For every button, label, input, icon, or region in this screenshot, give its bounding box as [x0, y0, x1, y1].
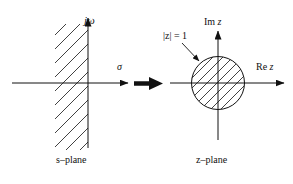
- figure-vector-layer: [0, 0, 293, 184]
- s-plane-real-axis-label: σ: [117, 62, 122, 72]
- figure-canvas: jω σ s–plane |z| = 1 Im z Re z z–plane: [0, 0, 293, 184]
- z-plane-real-axis-label-variable: z: [270, 61, 274, 72]
- z-plane-imaginary-axis-label-roman: Im: [204, 16, 215, 27]
- unit-circle-callout-leader: [182, 43, 199, 61]
- z-plane-caption: z–plane: [196, 155, 227, 165]
- s-plane-imaginary-axis-label: jω: [84, 15, 95, 26]
- s-plane-caption: s–plane: [56, 155, 87, 165]
- maps-to-arrow: [134, 77, 163, 90]
- z-plane-real-axis-label: Re z: [256, 62, 274, 72]
- unit-circle-label: |z| = 1: [163, 31, 187, 41]
- z-plane-real-axis-label-roman: Re: [256, 61, 267, 72]
- z-plane-imaginary-axis-label-variable: z: [218, 16, 222, 27]
- unit-circle-label-text: |z| = 1: [163, 30, 187, 41]
- z-plane-imaginary-axis-label: Im z: [204, 17, 222, 27]
